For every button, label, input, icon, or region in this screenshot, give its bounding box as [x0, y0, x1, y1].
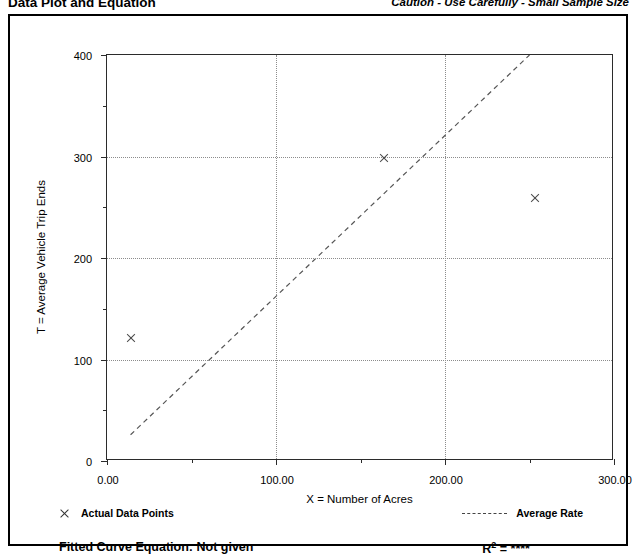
legend-label-data-points: Actual Data Points — [81, 507, 174, 519]
x-tick: 100.00 — [276, 459, 277, 465]
y-tick-label: 400 — [74, 50, 92, 62]
x-tick-label: 0.00 — [97, 474, 118, 486]
x-axis-title: X = Number of Acres — [106, 493, 613, 505]
footer: Fitted Curve Equation: Not given R2 = **… — [10, 540, 626, 558]
data-point-marker — [379, 152, 390, 163]
x-tick: 300.00 — [614, 459, 615, 465]
y-tick: 400 — [101, 55, 107, 56]
y-tick-minor — [103, 410, 107, 411]
caution-note: Caution - Use Carefully - Small Sample S… — [391, 0, 629, 8]
x-tick-label: 300.00 — [598, 474, 632, 486]
y-tick-label: 300 — [74, 152, 92, 164]
plot-inner — [107, 55, 612, 459]
y-tick-label: 0 — [86, 456, 92, 468]
plot-area: 01002003004000.00100.00200.00300.00 — [106, 54, 613, 460]
legend-item-data-points: Actual Data Points — [59, 507, 174, 519]
x-cross-icon — [59, 508, 70, 519]
y-tick-label: 200 — [74, 253, 92, 265]
x-tick: 200.00 — [445, 459, 446, 465]
y-tick-minor — [103, 207, 107, 208]
r-squared-number: = **** — [496, 542, 530, 556]
y-tick-minor — [103, 106, 107, 107]
data-point-marker — [529, 192, 540, 203]
y-tick: 200 — [101, 258, 107, 259]
trend-line — [131, 55, 530, 435]
x-tick-minor — [192, 459, 193, 463]
r-squared-value: R2 = **** — [482, 540, 530, 556]
legend-label-average-rate: Average Rate — [516, 507, 583, 519]
data-point-marker — [125, 332, 136, 343]
x-tick: 0.00 — [107, 459, 108, 465]
average-rate-line — [107, 55, 612, 459]
y-tick: 100 — [101, 360, 107, 361]
x-tick-minor — [361, 459, 362, 463]
y-tick: 300 — [101, 157, 107, 158]
r-squared-letter: R — [482, 542, 491, 556]
y-axis-title: T = Average Vehicle Trip Ends — [32, 54, 50, 460]
page-title: Data Plot and Equation — [8, 0, 156, 10]
legend-item-average-rate: Average Rate — [462, 507, 583, 519]
x-tick-label: 100.00 — [260, 474, 294, 486]
y-axis-title-label: T = Average Vehicle Trip Ends — [35, 180, 47, 334]
fitted-curve-equation: Fitted Curve Equation: Not given — [59, 540, 253, 554]
x-tick-label: 200.00 — [429, 474, 463, 486]
y-tick-label: 100 — [74, 355, 92, 367]
x-tick-minor — [530, 459, 531, 463]
dashed-line-icon — [462, 513, 507, 514]
y-tick-minor — [103, 309, 107, 310]
legend: Actual Data Points Average Rate — [10, 507, 626, 527]
chart-panel: T = Average Vehicle Trip Ends 0100200300… — [8, 14, 628, 546]
